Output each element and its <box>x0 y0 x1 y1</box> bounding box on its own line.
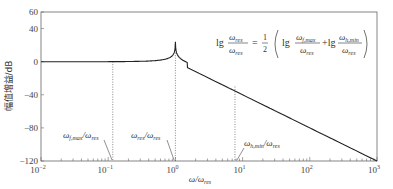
svg-text:2: 2 <box>263 45 267 54</box>
svg-text:+lg: +lg <box>322 37 335 48</box>
svg-text:=: = <box>252 37 258 48</box>
svg-text:ωres: ωres <box>300 45 314 56</box>
label-fmax: ωf,max/ωres <box>63 130 99 141</box>
svg-text:ωres: ωres <box>229 32 243 43</box>
y-tick-label: −40 <box>24 90 39 100</box>
svg-text:1: 1 <box>263 33 267 42</box>
x-tick-label: 10−1 <box>98 164 113 175</box>
x-tick-label: 100 <box>166 164 178 175</box>
x-tick-label: 10−2 <box>30 164 45 175</box>
y-tick-label: 60 <box>29 7 39 17</box>
reference-lines <box>113 45 235 161</box>
svg-text:ωres: ωres <box>342 45 356 56</box>
y-tick-label: 0 <box>34 57 39 67</box>
x-tick-label: 102 <box>301 164 313 175</box>
bode-chart: 60400−40−80−120 10−210−1100101102103 ωf,… <box>0 0 393 189</box>
svg-text:lg: lg <box>282 37 290 48</box>
x-tick-label: 103 <box>368 164 380 175</box>
svg-text:ωres: ωres <box>229 45 243 56</box>
svg-text:lg: lg <box>216 37 224 48</box>
magnitude-curve <box>41 42 377 161</box>
svg-text:ωf,max: ωf,max <box>296 32 316 43</box>
label-hmin: ωh,min/ωres <box>244 138 280 149</box>
leader-line-hmin <box>237 148 244 160</box>
equation-annotation: lg ωres ωres = 1 2 lg ωf,max ωres +lg ωh… <box>216 30 367 58</box>
y-axis-label: 幅值增益/dB <box>3 61 14 112</box>
x-axis-ticks: 10−210−1100101102103 <box>30 157 380 175</box>
y-axis-ticks: 60400−40−80−120 <box>19 7 44 166</box>
label-res: ωres/ωres <box>131 130 161 141</box>
x-axis-label: ω/ωres <box>189 174 212 185</box>
svg-text:ωh,min: ωh,min <box>339 32 359 43</box>
x-tick-label: 101 <box>234 164 246 175</box>
leader-line-res <box>167 140 174 160</box>
y-tick-label: 40 <box>29 24 39 34</box>
y-tick-label: −80 <box>24 123 39 133</box>
